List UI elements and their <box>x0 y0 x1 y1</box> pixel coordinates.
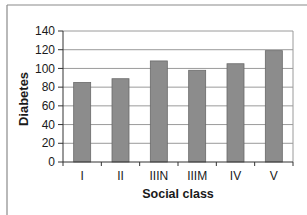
bar-iv <box>227 64 244 162</box>
axes <box>58 31 293 166</box>
x-tick-label: IIIM <box>187 169 207 183</box>
x-tick-label: V <box>270 169 278 183</box>
bar-v <box>265 51 282 162</box>
y-tick-label: 0 <box>48 155 55 169</box>
x-tick-label: IIIN <box>149 169 168 183</box>
bar-iiim <box>189 70 206 162</box>
bar-i <box>74 82 91 162</box>
y-tick-label: 20 <box>42 136 56 150</box>
y-tick-label: 80 <box>42 80 56 94</box>
x-tick-label: IV <box>230 169 241 183</box>
y-tick-label: 40 <box>42 118 56 132</box>
y-tick-labels: 020406080100120140 <box>35 24 55 169</box>
y-tick-label: 140 <box>35 24 55 38</box>
y-tick-label: 120 <box>35 43 55 57</box>
y-tick-label: 100 <box>35 62 55 76</box>
bar-ii <box>112 79 129 162</box>
gridlines <box>63 31 293 162</box>
bar-chart: 020406080100120140 IIIIIINIIIMIVV Diabet… <box>0 0 307 215</box>
x-tick-label: I <box>80 169 83 183</box>
y-tick-label: 60 <box>42 99 56 113</box>
y-axis-title: Diabetes <box>16 72 31 126</box>
bar-iiin <box>150 61 167 162</box>
chart-container: 020406080100120140 IIIIIINIIIMIVV Diabet… <box>0 0 307 215</box>
x-tick-labels: IIIIIINIIIMIVV <box>80 169 277 183</box>
x-tick-label: II <box>117 169 124 183</box>
x-axis-title: Social class <box>142 187 214 201</box>
